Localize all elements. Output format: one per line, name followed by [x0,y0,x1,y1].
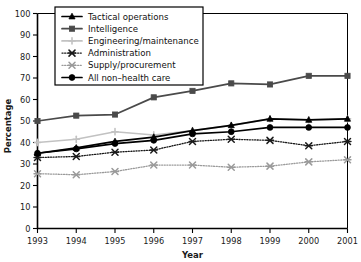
legend-label: Administration [88,48,151,58]
x-tick-label: 1994 [66,236,87,246]
marker-square [229,81,234,86]
y-tick-label: 30 [20,159,30,169]
marker-circle [306,125,312,131]
x-tick-label: 2001 [337,236,358,246]
x-axis: 199319941995199619971998199920002001 [27,229,358,246]
x-tick-label: 1997 [182,236,203,246]
marker-circle [228,129,234,135]
marker-square [190,88,195,93]
marker-square [345,73,350,78]
y-axis-title: Percentage [3,98,13,153]
chart-canvas: 0102030405060708090100199319941995199619… [0,0,361,262]
y-tick-label: 40 [20,138,30,148]
marker-square [69,26,74,31]
marker-square [112,112,117,117]
marker-square [35,118,40,123]
marker-circle [69,75,75,81]
legend-label: Tactical operations [87,12,169,22]
y-tick-label: 90 [20,30,30,40]
marker-square [151,95,156,100]
y-tick-label: 20 [20,181,30,191]
x-tick-label: 1999 [260,236,281,246]
x-tick-label: 1995 [105,236,126,246]
x-tick-label: 1993 [27,236,48,246]
y-axis: 0102030405060708090100 [15,9,38,234]
legend: Tactical operationsIntelligenceEngineeri… [55,7,203,85]
y-tick-label: 70 [20,73,30,83]
marker-square [306,73,311,78]
marker-square [267,82,272,87]
y-tick-label: 100 [15,9,31,19]
legend-label: Supply/procurement [88,60,176,70]
y-tick-label: 50 [20,116,30,126]
marker-circle [345,125,351,131]
x-tick-label: 1998 [221,236,242,246]
x-tick-label: 2000 [298,236,319,246]
marker-square [74,113,79,118]
legend-label: Intelligence [88,24,138,34]
x-axis-title: Year [181,250,204,260]
x-tick-label: 1996 [143,236,164,246]
y-tick-label: 0 [25,224,30,234]
y-tick-label: 10 [20,202,30,212]
legend-item-4[interactable]: Administration [62,48,151,58]
y-tick-label: 80 [20,52,30,62]
line-chart: 0102030405060708090100199319941995199619… [0,0,361,262]
legend-label: Engineering/maintenance [88,36,199,46]
marker-circle [267,125,273,131]
legend-label: All non–health care [88,73,170,83]
y-tick-label: 60 [20,95,30,105]
